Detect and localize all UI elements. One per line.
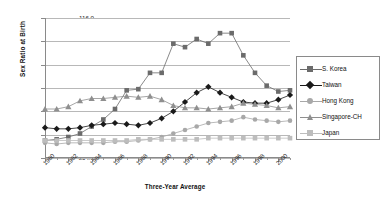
x-axis-minor-tick: [127, 158, 128, 160]
x-axis-minor-tick: [80, 158, 81, 160]
x-axis-title: Three-Year Average: [120, 183, 230, 190]
x-axis-minor-tick: [103, 158, 104, 160]
gridline: [46, 111, 290, 112]
legend-square-icon: [300, 64, 322, 74]
x-axis-minor-tick: [243, 158, 244, 160]
legend-item[interactable]: Singapore-CH: [300, 109, 376, 125]
legend-item-label: Singapore-CH: [322, 113, 362, 121]
legend-circle-icon: [300, 96, 322, 106]
legend-item-label: S. Korea: [322, 65, 347, 73]
legend-item[interactable]: Taiwan: [300, 77, 376, 93]
legend-diamond-icon: [300, 80, 322, 90]
x-axis-minor-tick: [220, 158, 221, 160]
x-axis-minor-tick: [197, 158, 198, 160]
legend-item[interactable]: Hong Kong: [300, 93, 376, 109]
gridline: [46, 88, 290, 89]
chart-figure: Sex Ratio at Birth 104.0106.0108.0110.01…: [0, 0, 385, 198]
plot-area: [45, 18, 290, 158]
legend-item[interactable]: S. Korea: [300, 61, 376, 77]
x-axis-minor-tick: [57, 158, 58, 160]
legend-item[interactable]: Japan: [300, 125, 376, 141]
gridline: [46, 41, 290, 42]
legend-item-label: Taiwan: [322, 81, 342, 89]
gridline: [46, 135, 290, 136]
gridline: [46, 18, 290, 19]
y-axis-title: Sex Ratio at Birth: [16, 0, 30, 105]
legend-triangle-icon: [300, 112, 322, 122]
legend-item-label: Japan: [322, 129, 339, 137]
x-axis-minor-tick: [290, 158, 291, 160]
x-axis-minor-tick: [267, 158, 268, 160]
legend-item-label: Hong Kong: [322, 97, 354, 105]
x-axis-minor-tick: [150, 158, 151, 160]
chart-legend: S. KoreaTaiwanHong KongSingapore-CHJapan: [296, 56, 380, 140]
x-axis-minor-tick: [173, 158, 174, 160]
gridline: [46, 65, 290, 66]
legend-square-icon: [300, 128, 322, 138]
